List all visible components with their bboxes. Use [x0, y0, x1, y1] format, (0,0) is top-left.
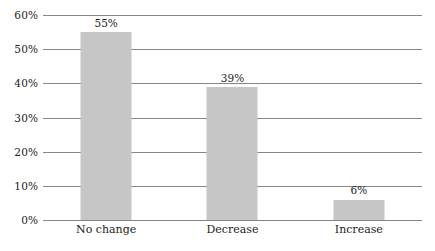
- y-tick-label: 0%: [0, 215, 38, 226]
- y-tick-label: 60%: [0, 10, 38, 21]
- bar-increase[interactable]: [333, 200, 384, 221]
- x-tick-label-decrease: Decrease: [169, 224, 295, 235]
- bar-band-no-change: 55%: [43, 15, 169, 220]
- y-tick-label: 40%: [0, 78, 38, 89]
- bar-no-change[interactable]: [81, 32, 132, 220]
- bar-chart: 60% 50% 40% 30% 20% 10% 0% 55% 39% 6% No…: [0, 0, 435, 251]
- bar-value-label: 55%: [94, 18, 117, 29]
- bar-band-decrease: 39%: [169, 15, 295, 220]
- axis-baseline: [43, 220, 422, 221]
- bar-value-label: 39%: [221, 73, 244, 84]
- x-axis: No change Decrease Increase: [43, 224, 422, 246]
- x-tick-label-no-change: No change: [43, 224, 169, 235]
- x-tick-label-increase: Increase: [296, 224, 422, 235]
- y-tick-label: 30%: [0, 112, 38, 123]
- y-tick-label: 50%: [0, 44, 38, 55]
- bar-band-increase: 6%: [296, 15, 422, 220]
- y-tick-label: 20%: [0, 146, 38, 157]
- plot-area: 55% 39% 6%: [43, 15, 422, 220]
- bar-decrease[interactable]: [207, 87, 258, 220]
- y-tick-label: 10%: [0, 181, 38, 192]
- bar-value-label: 6%: [350, 185, 367, 196]
- y-axis: 60% 50% 40% 30% 20% 10% 0%: [0, 15, 38, 220]
